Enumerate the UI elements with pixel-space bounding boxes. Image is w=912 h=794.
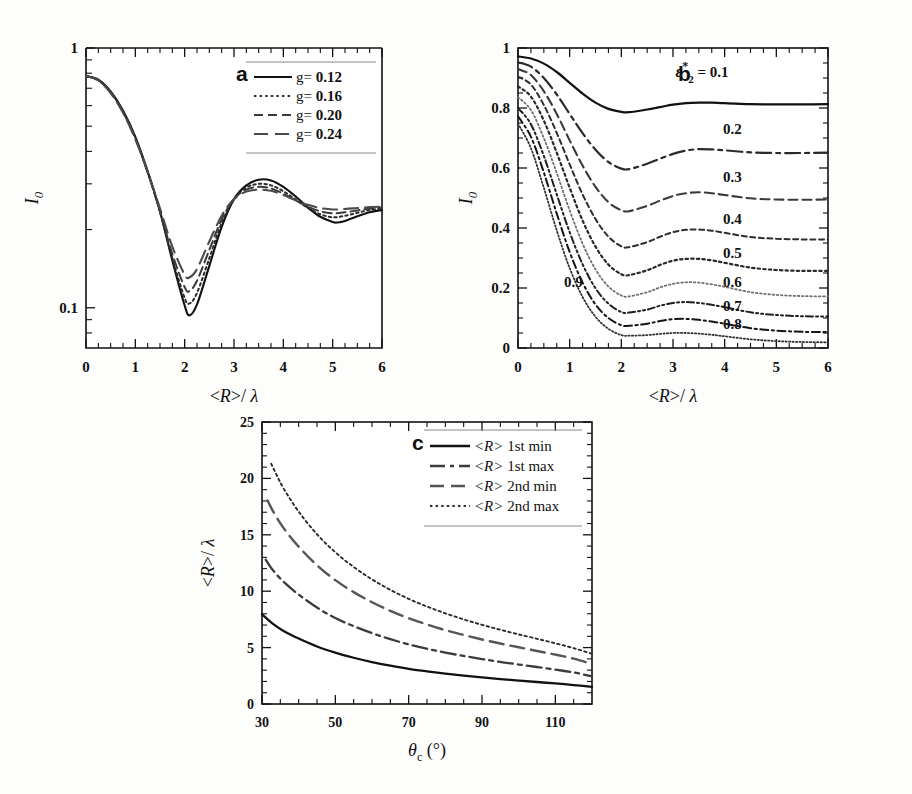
curve-label-0.2: 0.2 xyxy=(723,121,742,137)
chart-panel-c: 051015202530507090110c<R>/ λθc (°)<R> 1s… xyxy=(190,404,710,790)
y-axis-title: I0 xyxy=(22,191,46,205)
y-axis-title: <R>/ λ xyxy=(198,538,218,587)
x-tick-label: 4 xyxy=(280,359,288,375)
y-tick-label: 0 xyxy=(247,697,254,712)
x-tick-label: 90 xyxy=(475,715,489,730)
curve-label-0.9: 0.9 xyxy=(564,274,583,290)
y-tick-label: 10 xyxy=(240,584,254,599)
curve-label-0.3: 0.3 xyxy=(723,169,742,185)
y-tick-label: 20 xyxy=(240,471,254,486)
legend-label-0: <R> 1st min xyxy=(474,438,552,454)
y-axis-title: I0 xyxy=(456,191,480,205)
y-tick-label: 0.6 xyxy=(491,160,510,176)
x-axis-title: θc (°) xyxy=(408,740,446,764)
x-tick-label: 4 xyxy=(721,359,729,375)
legend-label-3: <R> 2nd max xyxy=(474,498,560,514)
legend-label-3: g= 0.24 xyxy=(296,126,342,142)
curve-label-0.4: 0.4 xyxy=(723,211,742,227)
chart-panel-b: 00.20.40.60.810123456bε*2 = 0.10.20.30.4… xyxy=(448,10,904,410)
y-tick-label: 5 xyxy=(247,641,254,656)
figure-container: 10.10123456aI0<R>/ λg= 0.12g= 0.16g= 0.2… xyxy=(0,0,912,794)
curve-label-0.8: 0.8 xyxy=(723,316,742,332)
y-tick-label: 0.1 xyxy=(59,300,78,316)
x-tick-label: 0 xyxy=(82,359,90,375)
curve-label-0.5: 0.5 xyxy=(723,245,742,261)
x-tick-label: 1 xyxy=(566,359,574,375)
x-tick-label: 3 xyxy=(230,359,238,375)
x-axis-title: <R>/ λ xyxy=(649,386,698,406)
x-tick-label: 2 xyxy=(618,359,626,375)
legend-label-1: <R> 1st max xyxy=(474,458,555,474)
y-tick-label: 0 xyxy=(503,340,511,356)
y-tick-label: 15 xyxy=(240,528,254,543)
x-tick-label: 110 xyxy=(545,715,565,730)
panel-letter-c: c xyxy=(412,431,424,454)
legend-label-0: g= 0.12 xyxy=(296,69,342,85)
y-tick-label: 1 xyxy=(71,40,79,56)
x-tick-label: 50 xyxy=(328,715,342,730)
panel-letter-a: a xyxy=(236,62,248,85)
panel-c-svg: 051015202530507090110c<R>/ λθc (°)<R> 1s… xyxy=(190,404,710,790)
y-tick-label: 0.4 xyxy=(491,220,510,236)
curve-label-0.6: 0.6 xyxy=(723,274,742,290)
x-tick-label: 3 xyxy=(669,359,677,375)
y-tick-label: 0.2 xyxy=(491,280,510,296)
panel-b-svg: 00.20.40.60.810123456bε*2 = 0.10.20.30.4… xyxy=(448,10,904,410)
x-tick-label: 6 xyxy=(824,359,832,375)
x-axis-title: <R>/ λ xyxy=(210,386,259,406)
y-tick-label: 25 xyxy=(240,415,254,430)
x-tick-label: 5 xyxy=(773,359,781,375)
x-tick-label: 2 xyxy=(181,359,189,375)
x-tick-label: 5 xyxy=(329,359,337,375)
legend-label-2: <R> 2nd min xyxy=(474,478,557,494)
curve-label-0.7: 0.7 xyxy=(723,298,742,314)
chart-panel-a: 10.10123456aI0<R>/ λg= 0.12g= 0.16g= 0.2… xyxy=(8,10,438,410)
x-tick-label: 30 xyxy=(255,715,269,730)
legend-label-2: g= 0.20 xyxy=(296,107,342,123)
x-tick-label: 6 xyxy=(378,359,386,375)
x-tick-label: 0 xyxy=(514,359,522,375)
y-tick-label: 0.8 xyxy=(491,100,510,116)
panel-a-svg: 10.10123456aI0<R>/ λg= 0.12g= 0.16g= 0.2… xyxy=(8,10,438,410)
x-tick-label: 70 xyxy=(402,715,416,730)
legend-label-1: g= 0.16 xyxy=(296,88,342,104)
x-tick-label: 1 xyxy=(132,359,140,375)
y-tick-label: 1 xyxy=(503,40,511,56)
